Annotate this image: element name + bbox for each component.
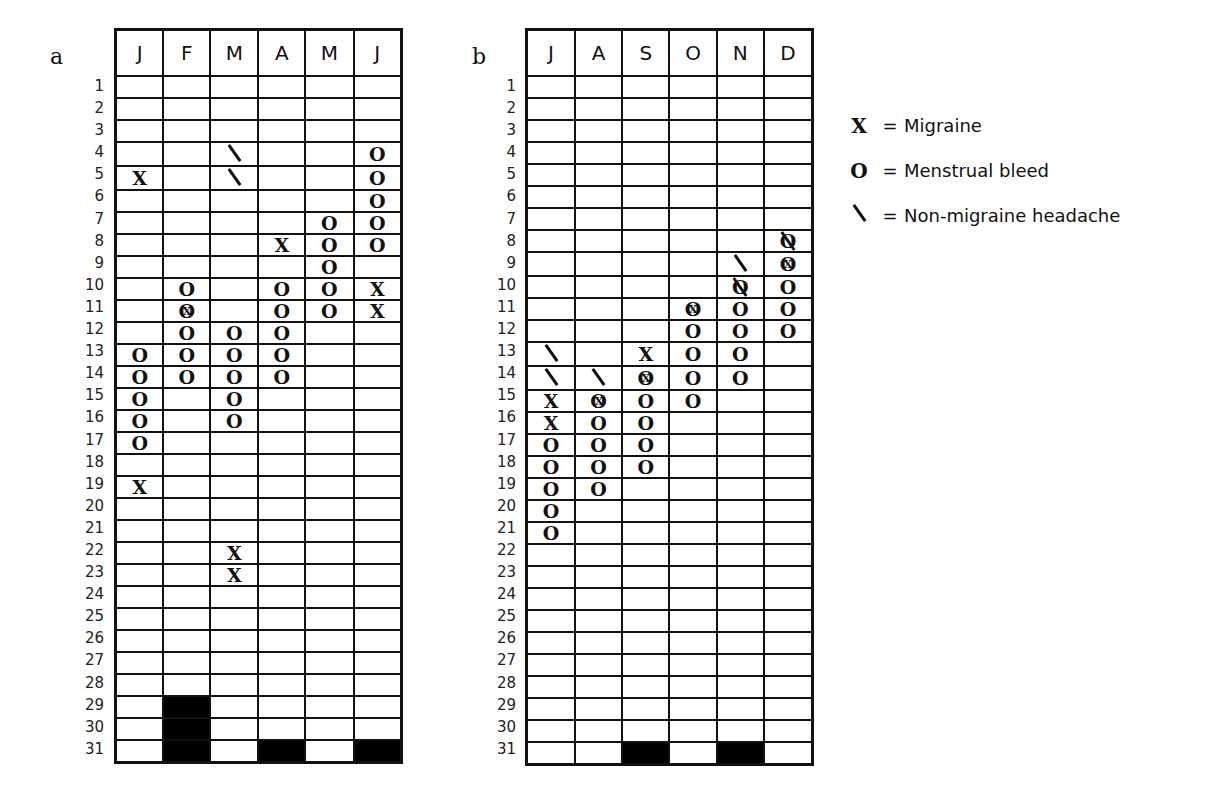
day-cell: O: [258, 278, 305, 300]
day-cell: [305, 718, 353, 740]
day-cell: X: [210, 542, 258, 564]
day-cell: [717, 164, 764, 186]
day-cell: [163, 718, 210, 740]
day-row: OOO: [527, 456, 813, 478]
day-cell: OX: [764, 252, 813, 276]
day-row: X: [116, 476, 402, 498]
month-header: J: [527, 30, 576, 77]
day-number: 8: [74, 230, 104, 252]
day-cell: [354, 740, 402, 763]
day-cell: [717, 676, 764, 698]
day-number: 7: [74, 208, 104, 230]
day-row: [527, 610, 813, 632]
day-cell: [305, 740, 353, 763]
legend: X = Migraine O = Menstrual bleed = Non-m…: [842, 103, 1120, 238]
day-cell: [669, 676, 716, 698]
day-cell: [764, 544, 813, 566]
day-cell: [717, 544, 764, 566]
day-cell: [669, 698, 716, 720]
menstrual-o-icon: O: [226, 322, 243, 344]
menstrual-o-icon: O: [638, 434, 655, 456]
day-row: OO: [116, 212, 402, 234]
day-cell: [527, 208, 576, 230]
day-cell: [717, 98, 764, 120]
day-cell: [622, 720, 669, 742]
day-cell: [163, 234, 210, 256]
day-cell: O: [527, 478, 576, 500]
menstrual-o-icon: O: [274, 300, 291, 322]
migraine-menstrual-icon: OX: [685, 300, 702, 318]
day-cell: [163, 630, 210, 652]
menstrual-o-icon: O: [321, 212, 338, 234]
day-row: [116, 586, 402, 608]
day-cell: [305, 142, 353, 166]
day-cell: [163, 498, 210, 520]
day-cell: [210, 652, 258, 674]
day-cell: [527, 164, 576, 186]
day-cell: [717, 720, 764, 742]
day-row: OXOOX: [116, 300, 402, 322]
migraine-x-icon: X: [132, 167, 147, 189]
day-cell: [575, 676, 622, 698]
menstrual-o-icon: O: [369, 190, 386, 212]
day-cell: O: [210, 388, 258, 410]
day-row: OO: [116, 388, 402, 410]
day-cell: [305, 564, 353, 586]
day-cell: [622, 588, 669, 610]
day-number: 2: [486, 97, 516, 119]
day-cell: [575, 342, 622, 366]
day-cell: [717, 566, 764, 588]
day-cell: [669, 632, 716, 654]
day-row: [527, 98, 813, 120]
day-cell: [163, 388, 210, 410]
day-cell: [669, 500, 716, 522]
day-cell: [669, 120, 716, 142]
day-cell: [163, 674, 210, 696]
day-cell: [527, 76, 576, 98]
headache-slash-icon: [842, 203, 876, 228]
day-cell: [764, 98, 813, 120]
day-cell: [210, 142, 258, 166]
day-cell: [305, 608, 353, 630]
panel-a-label: a: [50, 44, 63, 69]
day-cell: O: [717, 320, 764, 342]
day-cell: [258, 142, 305, 166]
day-cell: [622, 252, 669, 276]
day-cell: [116, 652, 164, 674]
day-cell: [575, 76, 622, 98]
day-row: [527, 632, 813, 654]
day-cell: [258, 476, 305, 498]
day-cell: [669, 76, 716, 98]
day-number: 21: [74, 517, 104, 539]
day-number: 10: [486, 274, 516, 296]
day-cell: O: [669, 366, 716, 390]
menstrual-o-icon: O: [543, 500, 560, 522]
day-cell: [210, 98, 258, 120]
day-cell: [622, 186, 669, 208]
day-row: [527, 208, 813, 230]
day-row: [527, 142, 813, 164]
day-cell: [764, 412, 813, 434]
day-cell: [305, 190, 353, 212]
day-cell: O: [116, 344, 164, 366]
day-number: 25: [486, 605, 516, 627]
day-cell: [622, 632, 669, 654]
day-cell: X: [527, 412, 576, 434]
day-number: 23: [486, 561, 516, 583]
day-number: 3: [74, 119, 104, 141]
day-cell: [116, 718, 164, 740]
migraine-x-icon: X: [370, 300, 385, 322]
day-number: 16: [486, 406, 516, 428]
month-header: A: [258, 30, 305, 77]
day-cell: O: [527, 456, 576, 478]
day-cell: [717, 434, 764, 456]
day-cell: [575, 186, 622, 208]
menstrual-o-icon: O: [131, 366, 148, 388]
day-cell: O: [258, 366, 305, 388]
day-row: [116, 498, 402, 520]
day-cell: [717, 390, 764, 412]
day-cell: [258, 630, 305, 652]
day-cell: [717, 456, 764, 478]
day-cell: O: [764, 320, 813, 342]
day-cell: [717, 742, 764, 765]
